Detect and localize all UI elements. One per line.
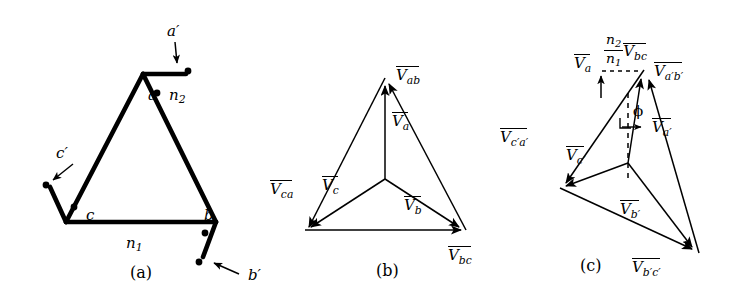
caption-panel-a: (a) bbox=[130, 265, 152, 281]
terminal-dot-b-prime bbox=[196, 259, 203, 266]
vector-base: V bbox=[500, 128, 511, 145]
numerator-base: n bbox=[606, 31, 615, 47]
numerator-subscript: 2 bbox=[615, 38, 621, 49]
terminal-dot-c bbox=[71, 204, 78, 211]
vector-subscript: ab bbox=[407, 74, 420, 87]
label-turns-n1: n1 bbox=[126, 236, 143, 254]
label-phasor-V-a-reference: Va bbox=[574, 54, 591, 74]
vector-base: V bbox=[632, 258, 643, 275]
vector-glyph-V-a: Va bbox=[392, 112, 409, 132]
phasor-V-apbp bbox=[649, 80, 699, 253]
label-turns-n2: n2 bbox=[169, 88, 186, 106]
overbar bbox=[632, 258, 660, 259]
label-node-a: a bbox=[148, 88, 157, 103]
overbar bbox=[396, 66, 419, 67]
terminal-dot-a-prime bbox=[185, 68, 192, 75]
vector-base: V bbox=[322, 176, 333, 193]
vector-glyph-V-a-reference: Va bbox=[574, 54, 591, 74]
label-phasor-V-bc: Vbc bbox=[448, 246, 472, 266]
overbar bbox=[574, 54, 590, 55]
label-phasor-V-cpap: Vc′a′ bbox=[500, 128, 528, 148]
vector-subscript: a′b′ bbox=[665, 70, 683, 83]
caption-panel-c: (c) bbox=[580, 258, 601, 274]
vector-base: V bbox=[623, 42, 634, 59]
vector-subscript: bc bbox=[459, 254, 472, 267]
figure-root: actually left vertex (556,188), BR (699,… bbox=[0, 0, 734, 295]
overbar bbox=[566, 146, 584, 147]
overbar bbox=[392, 112, 408, 113]
overbar bbox=[270, 180, 292, 181]
overbar bbox=[620, 200, 639, 201]
vector-subscript: ca bbox=[281, 188, 293, 201]
label-phasor-V-apbp: Va′b′ bbox=[654, 62, 683, 82]
vector-subscript: b bbox=[415, 204, 422, 217]
turns-n1-sub: 1 bbox=[136, 241, 143, 254]
label-phasor-V-cp: Vc′ bbox=[566, 146, 585, 166]
label-phasor-V-a: Va bbox=[392, 112, 409, 132]
vector-glyph-V-ab: Vab bbox=[396, 66, 420, 86]
label-phasor-V-ab: Vab bbox=[396, 66, 420, 86]
vector-base: V bbox=[396, 66, 407, 83]
turns-n2-sub: 2 bbox=[179, 93, 186, 106]
vector-glyph-V-ap: Va′ bbox=[652, 118, 672, 138]
vector-glyph-V-c: Vc bbox=[322, 176, 339, 196]
vector-glyph-V-b: Vb bbox=[404, 196, 422, 216]
vector-glyph-V-ca: Vca bbox=[270, 180, 293, 200]
vector-base: V bbox=[620, 200, 631, 217]
vector-subscript: a bbox=[403, 120, 409, 133]
panel-a-winding bbox=[50, 74, 216, 257]
vector-subscript: c′a′ bbox=[511, 136, 528, 149]
vector-base: V bbox=[404, 196, 415, 213]
pointer-arrow-c-prime bbox=[53, 164, 73, 180]
vector-subscript: c bbox=[333, 184, 339, 197]
turns-n2-base: n bbox=[169, 86, 179, 104]
overbar bbox=[652, 118, 671, 119]
vector-subscript: a bbox=[585, 62, 591, 75]
pointer-arrow-a-prime bbox=[175, 42, 177, 63]
label-phasor-V-bp: Vb′ bbox=[620, 200, 640, 220]
vector-glyph-V-cpap: Vc′a′ bbox=[500, 128, 528, 148]
label-node-b: b bbox=[204, 208, 214, 223]
tap-lead-c-prime bbox=[50, 187, 66, 222]
turns-n1-base: n bbox=[126, 234, 136, 252]
phasor-V-ca bbox=[309, 78, 385, 227]
overbar bbox=[500, 128, 527, 129]
tap-lead-b-prime bbox=[203, 222, 216, 257]
vector-base: V bbox=[392, 112, 403, 129]
label-node-c: c bbox=[86, 208, 94, 223]
vector-base: V bbox=[654, 62, 665, 79]
overbar bbox=[448, 246, 471, 247]
terminal-dot-c-prime bbox=[43, 182, 50, 189]
label-phasor-V-ca: Vca bbox=[270, 180, 293, 200]
vector-base: V bbox=[652, 118, 663, 135]
vector-base: V bbox=[448, 246, 459, 263]
denominator-subscript: 1 bbox=[615, 57, 621, 68]
label-scaled-phasor-n2-n1-V-bc: n2 n1 Vbc bbox=[604, 32, 647, 68]
turns-ratio-fraction: n2 n1 bbox=[604, 32, 623, 68]
panel-b-phasors bbox=[305, 78, 466, 230]
vector-glyph-V-bpcp: Vb′c′ bbox=[632, 258, 661, 278]
vector-subscript: b′ bbox=[631, 208, 640, 221]
pointer-arrow-b-prime bbox=[214, 263, 239, 274]
vector-base: V bbox=[566, 146, 577, 163]
vector-subscript: b′c′ bbox=[643, 266, 661, 279]
label-tap-b-prime: b′ bbox=[248, 268, 261, 283]
label-tap-a-prime: a′ bbox=[167, 24, 179, 39]
label-phasor-V-bpcp: Vb′c′ bbox=[632, 258, 661, 278]
vector-glyph-V-cp: Vc′ bbox=[566, 146, 585, 166]
label-phasor-V-c: Vc bbox=[322, 176, 339, 196]
phasor-V-b bbox=[385, 179, 459, 227]
vector-glyph-V-bc: Vbc bbox=[448, 246, 472, 266]
overbar bbox=[404, 196, 421, 197]
overbar bbox=[654, 62, 682, 63]
overbar bbox=[322, 176, 338, 177]
vector-subscript: c′ bbox=[577, 154, 586, 167]
label-tap-c-prime: c′ bbox=[56, 146, 68, 161]
denominator-base: n bbox=[606, 50, 615, 66]
turns-ratio-numerator: n2 bbox=[604, 32, 623, 50]
label-angle-phi: ϕ bbox=[633, 104, 643, 119]
vector-base: V bbox=[270, 180, 281, 197]
vector-glyph-V-bc-scaled: Vbc bbox=[623, 42, 647, 62]
vector-subscript: a′ bbox=[663, 126, 672, 139]
phasor-V-cp bbox=[566, 163, 628, 186]
